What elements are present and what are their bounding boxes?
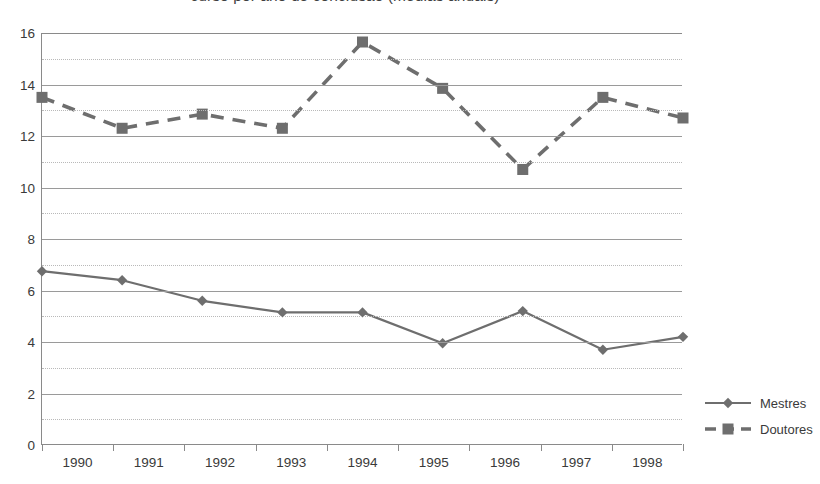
y-axis-tick-label: 4 [27, 335, 35, 350]
gridline-major [42, 188, 682, 189]
gridline-minor [42, 265, 682, 266]
x-axis-tick-label: 1994 [347, 455, 377, 470]
gridline-major [42, 342, 682, 343]
legend-label: Doutores [760, 422, 813, 437]
y-axis-tick-label: 0 [27, 438, 35, 453]
y-axis-tick-label: 14 [20, 77, 35, 92]
gridline-major [42, 85, 682, 86]
x-axis-tick-label: 1990 [63, 455, 93, 470]
x-axis-tick-label: 1995 [419, 455, 449, 470]
gridline-major [42, 33, 682, 34]
x-axis-tick [612, 444, 613, 451]
data-point-marker-square [678, 112, 689, 123]
x-axis-tick [683, 444, 684, 451]
data-point-marker-diamond [197, 296, 207, 306]
legend-swatch-doutores [705, 422, 751, 436]
x-axis-tick [256, 444, 257, 451]
data-point-marker-diamond [437, 338, 447, 348]
y-axis-tick-label: 6 [27, 283, 35, 298]
x-axis-tick [398, 444, 399, 451]
x-axis-tick-label: 1998 [632, 455, 662, 470]
x-axis-tick [113, 444, 114, 451]
data-point-marker-square [597, 92, 608, 103]
x-axis-tick-label: 1993 [276, 455, 306, 470]
x-axis-tick-label: 1996 [490, 455, 520, 470]
y-axis-tick-label: 10 [20, 180, 35, 195]
data-point-marker-diamond [518, 306, 528, 316]
y-axis-tick-label: 12 [20, 129, 35, 144]
x-axis-tick [469, 444, 470, 451]
legend-label: Mestres [760, 396, 806, 411]
gridline-major [42, 394, 682, 395]
data-point-marker-square [277, 123, 288, 134]
x-axis-tick [327, 444, 328, 451]
legend-item-doutores[interactable]: Doutores [705, 416, 813, 442]
plot-area: 0246810121416199019911992199319941995199… [41, 33, 682, 445]
chart-title: curso por ano de conclusão (médias anuai… [0, 0, 690, 5]
gridline-minor [42, 162, 682, 163]
data-point-marker-square [517, 164, 528, 175]
data-point-marker-square [117, 123, 128, 134]
x-axis-tick-label: 1997 [561, 455, 591, 470]
gridline-major [42, 136, 682, 137]
gridline-minor [42, 368, 682, 369]
x-axis-tick [184, 444, 185, 451]
y-axis-tick-label: 16 [20, 26, 35, 41]
series-doutores [37, 37, 689, 175]
x-axis-tick-label: 1991 [134, 455, 164, 470]
gridline-minor [42, 213, 682, 214]
data-point-marker-diamond [37, 266, 47, 276]
data-point-marker-diamond [598, 345, 608, 355]
data-point-marker-square [357, 37, 368, 48]
y-axis-tick-label: 8 [27, 232, 35, 247]
data-point-marker-diamond [117, 275, 127, 285]
gridline-minor [42, 419, 682, 420]
chart-legend: MestresDoutores [705, 390, 813, 442]
gridline-minor [42, 316, 682, 317]
legend-item-mestres[interactable]: Mestres [705, 390, 813, 416]
gridline-major [42, 239, 682, 240]
data-point-marker-square [37, 92, 48, 103]
gridline-minor [42, 59, 682, 60]
series-line [42, 42, 683, 169]
legend-swatch-mestres [705, 396, 751, 410]
gridline-major [42, 291, 682, 292]
x-axis-tick-label: 1992 [205, 455, 235, 470]
x-axis-tick [42, 444, 43, 451]
y-axis-tick-label: 2 [27, 386, 35, 401]
gridline-minor [42, 110, 682, 111]
x-axis-tick [541, 444, 542, 451]
data-point-marker-diamond [678, 332, 688, 342]
